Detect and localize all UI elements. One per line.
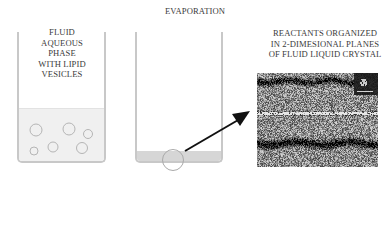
vesicle	[30, 124, 42, 136]
arrow-head-icon	[232, 111, 250, 126]
vesicle	[77, 143, 88, 154]
vesicle	[84, 130, 93, 139]
arrow-line	[185, 116, 245, 151]
vesicle	[48, 142, 58, 152]
vesicle	[63, 123, 75, 135]
magnify-circle	[163, 150, 184, 171]
vesicle	[30, 147, 38, 155]
micrograph-image	[257, 73, 378, 167]
